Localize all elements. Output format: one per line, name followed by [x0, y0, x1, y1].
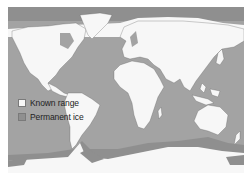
- new-guinea: [210, 89, 220, 97]
- philippines: [200, 83, 206, 93]
- arctic-ice: [8, 7, 244, 21]
- africa: [114, 61, 164, 129]
- world-map-svg: [8, 7, 244, 173]
- new-zealand: [234, 131, 240, 145]
- indonesia: [192, 95, 214, 105]
- legend-item-permanent-ice: Permanent ice: [18, 110, 84, 124]
- madagascar: [158, 107, 162, 119]
- permanent-ice-swatch: [18, 113, 26, 121]
- north-america: [12, 23, 86, 91]
- legend-label: Known range: [30, 98, 79, 108]
- australia: [194, 105, 228, 135]
- known-range-swatch: [18, 99, 26, 107]
- central-america: [48, 83, 70, 97]
- legend-item-known-range: Known range: [18, 96, 84, 110]
- legend-label: Permanent ice: [30, 112, 84, 122]
- map-legend: Known range Permanent ice: [18, 96, 84, 124]
- world-map: Known range Permanent ice: [8, 7, 244, 173]
